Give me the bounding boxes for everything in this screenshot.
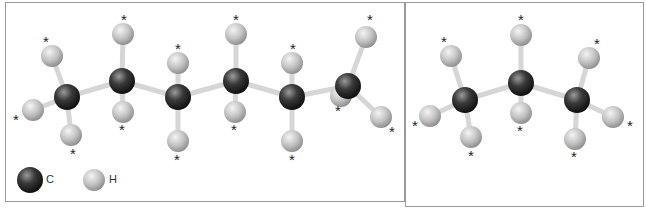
chain-carbon-atom (335, 73, 361, 99)
chain-carbon-atom (54, 84, 80, 110)
propane-hydrogen-atom (510, 102, 532, 124)
chain-hydrogen-atom (60, 124, 82, 146)
asterisk-marker: * (594, 35, 600, 52)
chain-carbon-atom (223, 68, 249, 94)
asterisk-marker: * (121, 11, 127, 28)
chain-carbon-atom (165, 84, 191, 110)
legend-carbon-atom-icon (17, 167, 43, 193)
asterisk-marker: * (43, 33, 49, 50)
molecule-diagram: ********************** (0, 0, 646, 210)
asterisk-marker: * (233, 11, 239, 28)
legend-carbon-label: C (46, 173, 54, 185)
propane-carbon-atom (564, 87, 590, 113)
legend-hydrogen-atom-icon (83, 169, 105, 191)
asterisk-marker: * (441, 33, 447, 50)
asterisk-marker: * (175, 40, 181, 57)
asterisk-marker: * (627, 117, 633, 134)
asterisk-marker: * (290, 40, 296, 57)
chain-hydrogen-atom (167, 130, 189, 152)
propane-hydrogen-atom (564, 128, 586, 150)
propane-hydrogen-atom (602, 106, 624, 128)
chain-hydrogen-atom (22, 99, 44, 121)
propane-hydrogen-atom (460, 126, 482, 148)
asterisk-marker: * (517, 122, 523, 139)
asterisk-marker: * (174, 151, 180, 168)
asterisk-marker: * (119, 121, 125, 138)
legend-hydrogen-label: H (109, 173, 117, 185)
asterisk-marker: * (412, 117, 418, 134)
chain-carbon-atom (279, 84, 305, 110)
propane-hydrogen-atom (419, 105, 441, 127)
asterisk-marker: * (571, 148, 577, 165)
asterisk-marker: * (289, 151, 295, 168)
chain-hydrogen-atom (281, 130, 303, 152)
asterisk-marker: * (13, 111, 19, 128)
asterisk-marker: * (367, 11, 373, 28)
legend (17, 167, 105, 193)
asterisk-marker: * (389, 123, 395, 140)
asterisk-marker: * (335, 102, 341, 119)
asterisk-marker: * (231, 121, 237, 138)
asterisk-marker: * (70, 145, 76, 162)
propane-carbon-atom (508, 70, 534, 96)
propane-carbon-atom (452, 87, 478, 113)
chain-hydrogen-atom (224, 101, 246, 123)
chain-hydrogen-atom (112, 101, 134, 123)
chain-hydrogen-atom (355, 26, 377, 48)
asterisk-marker: * (518, 11, 524, 28)
chain-carbon-atom (109, 68, 135, 94)
asterisk-marker: * (468, 147, 474, 164)
